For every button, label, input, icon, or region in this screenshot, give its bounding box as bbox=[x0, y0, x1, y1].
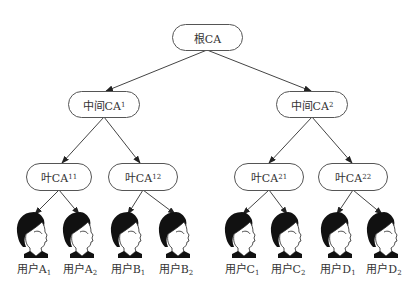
user-face-icon bbox=[364, 210, 404, 258]
edge-mid1-leaf12 bbox=[104, 117, 140, 163]
node-leaf-ca-11: 叶CA11 bbox=[26, 163, 92, 191]
user-face-icon bbox=[60, 210, 100, 258]
node-label: 中间CA bbox=[83, 97, 121, 113]
user-c2: 用户C2 bbox=[266, 210, 310, 280]
node-label: 叶CA bbox=[251, 169, 278, 185]
node-subscript: 21 bbox=[278, 173, 287, 181]
user-face-icon bbox=[156, 210, 196, 258]
user-b1: 用户B1 bbox=[106, 210, 150, 280]
user-d2: 用户D2 bbox=[362, 210, 406, 280]
user-d1: 用户D1 bbox=[316, 210, 360, 280]
user-face-icon bbox=[318, 210, 358, 258]
node-subscript: 11 bbox=[68, 173, 77, 181]
user-b2: 用户B2 bbox=[154, 210, 198, 280]
node-leaf-ca-21: 叶CA21 bbox=[234, 163, 304, 191]
node-subscript: 1 bbox=[121, 101, 125, 109]
edge-root-mid2 bbox=[207, 50, 311, 91]
user-a2: 用户A2 bbox=[58, 210, 102, 280]
node-label: 叶CA bbox=[125, 169, 152, 185]
node-label: 叶CA bbox=[335, 169, 362, 185]
node-label: 中间CA bbox=[291, 97, 329, 113]
node-leaf-ca-12: 叶CA12 bbox=[108, 163, 178, 191]
user-face-icon bbox=[222, 210, 262, 258]
node-subscript: 22 bbox=[362, 173, 371, 181]
user-face-icon bbox=[108, 210, 148, 258]
node-leaf-ca-22: 叶CA22 bbox=[318, 163, 388, 191]
node-root-ca: 根CA bbox=[172, 24, 243, 51]
user-label: 用户C2 bbox=[260, 260, 316, 277]
node-subscript: 12 bbox=[152, 173, 161, 181]
node-intermediate-ca-1: 中间CA1 bbox=[68, 91, 140, 118]
node-subscript: 2 bbox=[329, 101, 333, 109]
user-a1: 用户A1 bbox=[12, 210, 56, 280]
edge-mid1-leaf11 bbox=[62, 117, 104, 163]
edge-mid2-leaf21 bbox=[269, 117, 312, 163]
node-root-ca-label: 根CA bbox=[194, 30, 221, 46]
user-face-icon bbox=[14, 210, 54, 258]
node-label: 叶CA bbox=[41, 169, 68, 185]
edge-root-mid1 bbox=[106, 50, 207, 91]
user-label: 用户D2 bbox=[356, 260, 412, 277]
user-face-icon bbox=[268, 210, 308, 258]
user-label: 用户B2 bbox=[148, 260, 204, 277]
user-c1: 用户C1 bbox=[220, 210, 264, 280]
node-intermediate-ca-2: 中间CA2 bbox=[276, 91, 348, 118]
edge-mid2-leaf22 bbox=[312, 117, 352, 163]
ca-hierarchy-diagram: 根CA 中间CA1 中间CA2 叶CA11 叶CA12 叶CA21 叶CA22 … bbox=[0, 0, 415, 286]
